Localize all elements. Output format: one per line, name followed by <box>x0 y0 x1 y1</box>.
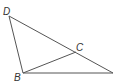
segment-db <box>9 16 23 73</box>
label-b: B <box>14 72 21 83</box>
triangle-diagram: D B C <box>0 0 118 84</box>
label-d: D <box>3 6 10 17</box>
label-c: C <box>76 42 84 53</box>
segment-bc <box>23 52 76 73</box>
segment-da <box>9 16 113 73</box>
